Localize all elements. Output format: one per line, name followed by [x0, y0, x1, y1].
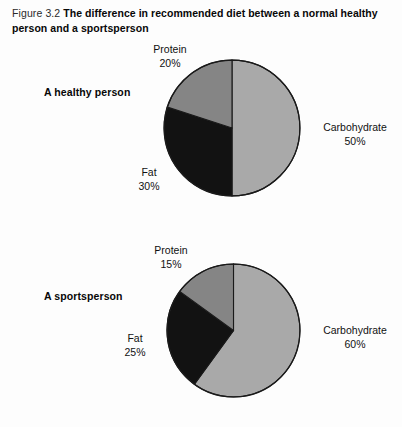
pie-label-carbohydrate-sportsperson: Carbohydrate 60%: [311, 324, 399, 351]
pie-label-fat-name-healthy: Fat: [141, 166, 156, 178]
pie-label-protein-sportsperson: Protein 15%: [140, 244, 202, 271]
pie-label-carbohydrate-value-healthy: 50%: [311, 135, 399, 149]
pie-label-protein-name-healthy: Protein: [153, 43, 186, 55]
figure-title: The difference in recommended diet betwe…: [12, 7, 378, 34]
pie-label-carbohydrate-value-sportsperson: 60%: [311, 338, 399, 352]
pie-label-carbohydrate-healthy: Carbohydrate 50%: [311, 121, 399, 148]
pie-label-fat-healthy: Fat 30%: [128, 166, 170, 193]
pie-label-protein-name-sportsperson: Protein: [154, 244, 187, 256]
pie-graphic-sportsperson: [165, 262, 302, 399]
pie-label-protein-value-sportsperson: 15%: [140, 258, 202, 272]
pie-svg-healthy: [162, 58, 302, 198]
pie-slice-carbohydrate-healthy: [232, 60, 300, 196]
pie-graphic-healthy: [162, 58, 302, 198]
pie-chart-sportsperson: A sportsperson Protein 15% Carbohydrate …: [0, 238, 402, 427]
figure-number: Figure 3.2: [12, 7, 60, 19]
pie-svg-sportsperson: [165, 262, 302, 399]
pie-label-fat-value-sportsperson: 25%: [114, 346, 156, 360]
pie-label-carbohydrate-name-sportsperson: Carbohydrate: [323, 324, 387, 336]
pie-label-protein-healthy: Protein 20%: [139, 43, 201, 70]
figure-caption: Figure 3.2 The difference in recommended…: [12, 6, 390, 35]
chart-subject-label-healthy: A healthy person: [44, 86, 130, 98]
pie-label-fat-name-sportsperson: Fat: [127, 332, 142, 344]
pie-label-fat-value-healthy: 30%: [128, 180, 170, 194]
pie-label-protein-value-healthy: 20%: [139, 57, 201, 71]
chart-subject-label-sportsperson: A sportsperson: [44, 290, 123, 302]
pie-label-carbohydrate-name-healthy: Carbohydrate: [323, 121, 387, 133]
pie-label-fat-sportsperson: Fat 25%: [114, 332, 156, 359]
pie-chart-healthy-person: A healthy person Protein 20% Carbohydrat…: [0, 36, 402, 221]
